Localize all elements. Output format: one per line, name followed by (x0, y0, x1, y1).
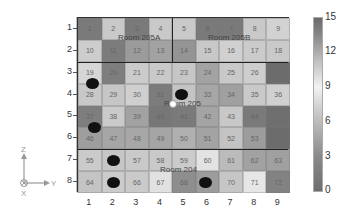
heatmap-cell: 34 (219, 84, 243, 106)
heatmap-cell: 49 (149, 127, 173, 149)
heatmap-cell: 21 (125, 62, 149, 84)
heatmap-cell: 70 (219, 171, 243, 193)
black-marker (107, 155, 120, 166)
colorbar-tick-12: 12 (325, 45, 336, 56)
room-divider-bottom (78, 149, 288, 150)
heatmap-cell: 11 (102, 40, 126, 62)
colorbar-tick-6: 6 (325, 115, 331, 126)
heatmap-cell: 42 (196, 106, 220, 128)
y-tick-mark (73, 72, 77, 73)
y-tick-mark (73, 115, 77, 116)
heatmap-cell: 39 (125, 106, 149, 128)
y-tick-label: 3 (60, 66, 72, 76)
y-tick-mark (73, 28, 77, 29)
heatmap-cell: 29 (102, 84, 126, 106)
heatmap-cell: 17 (243, 40, 267, 62)
heatmap-cell: 44 (243, 106, 267, 128)
heatmap-cell: 20 (102, 62, 126, 84)
heatmap-cell: 5 (172, 18, 196, 40)
heatmap-chart: 1234567891011121314151617181920212223242… (0, 0, 348, 213)
heatmap-cell: 52 (219, 127, 243, 149)
heatmap-cell: 41 (172, 106, 196, 128)
heatmap-cell: 47 (102, 127, 126, 149)
heatmap-cell: 43 (219, 106, 243, 128)
heatmap-cell: 60 (196, 149, 220, 171)
heatmap-cell: 66 (125, 171, 149, 193)
colorbar-tick-9: 9 (325, 80, 331, 91)
room-label-205b: Room 205B (208, 33, 250, 42)
heatmap-cell: 48 (125, 127, 149, 149)
heatmap-cell (266, 127, 290, 149)
heatmap-cell: 14 (172, 40, 196, 62)
heatmap-cell: 50 (172, 127, 196, 149)
heatmap-cell: 63 (266, 149, 290, 171)
room-label-204: Room 204 (160, 165, 197, 174)
heatmap-cell: 26 (243, 62, 267, 84)
x-tick-label: 7 (224, 197, 236, 207)
x-tick-label: 9 (271, 197, 283, 207)
axis-x-label: X (21, 189, 27, 198)
heatmap-cell: 24 (196, 62, 220, 84)
y-tick-label: 6 (60, 131, 72, 141)
y-tick-mark (73, 159, 77, 160)
colorbar-tick-3: 3 (325, 150, 331, 161)
heatmap-cell: 30 (125, 84, 149, 106)
heatmap-cell: 36 (266, 84, 290, 106)
room-divider-top (78, 62, 288, 63)
x-tick-label: 1 (83, 197, 95, 207)
heatmap-cell: 23 (172, 62, 196, 84)
heatmap-cell: 15 (196, 40, 220, 62)
heatmap-cell: 62 (243, 149, 267, 171)
x-tick-label: 3 (130, 197, 142, 207)
heatmap-cell: 9 (266, 18, 290, 40)
plot-area: 1234567891011121314151617181920212223242… (77, 17, 289, 192)
x-tick-label: 4 (153, 197, 165, 207)
heatmap-cell: 25 (219, 62, 243, 84)
axis-y-label: Y (51, 179, 57, 188)
room-label-205a: Room 205A (118, 33, 160, 42)
heatmap-cell: 16 (219, 40, 243, 62)
heatmap-cell: 71 (243, 171, 267, 193)
heatmap-cell: 51 (196, 127, 220, 149)
x-tick-label: 8 (248, 197, 260, 207)
x-tick-label: 5 (177, 197, 189, 207)
heatmap-cell: 12 (125, 40, 149, 62)
heatmap-cell: 10 (78, 40, 102, 62)
heatmap-cell: 68 (172, 171, 196, 193)
y-tick-label: 4 (60, 88, 72, 98)
heatmap-cell (266, 106, 290, 128)
heatmap-cell: 72 (266, 171, 290, 193)
heatmap-cell: 18 (266, 40, 290, 62)
heatmap-cell: 53 (243, 127, 267, 149)
axis-z-label: Z (21, 145, 26, 154)
x-tick-label: 6 (201, 197, 213, 207)
y-tick-label: 2 (60, 44, 72, 54)
heatmap-cell: 67 (149, 171, 173, 193)
heatmap-cell: 40 (149, 106, 173, 128)
y-tick-label: 1 (60, 22, 72, 32)
room-divider-205a-205b (172, 18, 173, 62)
heatmap-cell: 35 (243, 84, 267, 106)
heatmap-cell: 1 (78, 18, 102, 40)
y-tick-mark (73, 181, 77, 182)
heatmap-cell: 55 (78, 149, 102, 171)
axes-orientation-icon: Z Y X (12, 143, 62, 198)
heatmap-cell: 64 (78, 171, 102, 193)
heatmap-cell: 13 (149, 40, 173, 62)
black-marker (199, 177, 212, 188)
black-marker (107, 177, 120, 188)
y-tick-mark (73, 94, 77, 95)
black-marker (88, 122, 101, 133)
heatmap-cell: 61 (219, 149, 243, 171)
black-marker (86, 78, 99, 89)
heatmap-cell: 22 (149, 62, 173, 84)
y-tick-label: 5 (60, 109, 72, 119)
heatmap-cell: 57 (125, 149, 149, 171)
colorbar-tick-0: 0 (325, 184, 331, 195)
y-tick-mark (73, 137, 77, 138)
colorbar (313, 17, 323, 192)
heatmap-cell (266, 62, 290, 84)
heatmap-cell: 38 (102, 106, 126, 128)
colorbar-tick-15: 15 (325, 11, 336, 22)
y-tick-mark (73, 50, 77, 51)
